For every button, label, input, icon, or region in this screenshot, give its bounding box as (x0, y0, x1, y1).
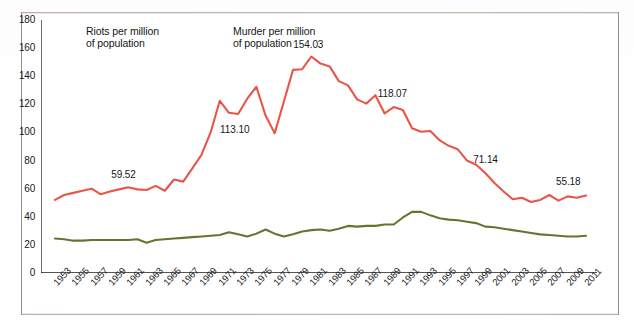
y-axis-tick-label: 180 (9, 14, 35, 25)
plot-area (41, 20, 597, 273)
chart-figure: Riots per million of population Murder p… (0, 0, 634, 331)
y-axis-tick-label: 140 (9, 70, 35, 81)
y-axis-tick-label: 40 (9, 211, 35, 222)
y-axis-tick-label: 100 (9, 126, 35, 137)
y-axis-tick-label: 0 (9, 267, 35, 278)
series-canvas (41, 20, 597, 273)
y-axis-tick-label: 80 (9, 155, 35, 166)
scan-fringe-top (22, 12, 618, 14)
riots-series-line (55, 57, 586, 203)
y-axis-tick-label: 160 (9, 42, 35, 53)
scan-fringe-bottom (22, 313, 618, 315)
murder-series-line (55, 212, 586, 243)
y-axis-tick-label: 60 (9, 183, 35, 194)
y-axis-tick-label: 20 (9, 239, 35, 250)
y-axis-tick-label: 120 (9, 98, 35, 109)
